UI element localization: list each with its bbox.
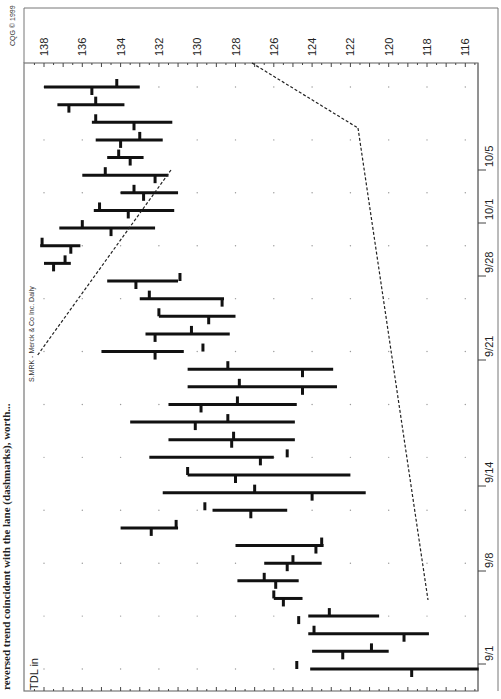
price-tick-label: 116 (459, 38, 471, 56)
date-tick-label: 9/14 (483, 462, 495, 483)
date-tick-label: 9/8 (483, 553, 495, 568)
price-tick-label: 136 (76, 38, 88, 56)
ohlc-chart: 138136134132130128126124122120118116 9/1… (0, 0, 501, 699)
chart-title: S.MRK - Merck & Co Inc. Daily (28, 286, 36, 382)
indicator-label: TDL in (28, 658, 40, 690)
copyright-label: CQG © 1999 (9, 5, 17, 46)
price-axis: 138136134132130128126124122120118116 (34, 38, 474, 691)
date-tick-label: 9/1 (483, 646, 495, 661)
price-tick-label: 124 (306, 38, 318, 56)
price-tick-label: 122 (344, 38, 356, 56)
date-tick-label: 9/28 (483, 252, 495, 273)
price-tick-label: 134 (115, 38, 127, 56)
price-tick-label: 138 (38, 38, 50, 56)
price-tick-label: 120 (383, 38, 395, 56)
price-tick-label: 118 (421, 38, 433, 56)
price-tick-label: 132 (153, 38, 165, 56)
price-bars (40, 79, 479, 677)
price-tick-label: 130 (191, 38, 203, 56)
date-tick-label: 10/5 (483, 146, 495, 167)
price-tick-label: 128 (230, 38, 242, 56)
date-tick-label: 10/1 (483, 199, 495, 220)
caption-fragment: reversed trend coincident with the lane … (0, 403, 13, 690)
trendlines (37, 63, 428, 600)
date-axis: 9/19/89/149/219/2810/110/5 (478, 146, 495, 664)
price-tick-label: 126 (268, 38, 280, 56)
date-tick-label: 9/21 (483, 336, 495, 357)
